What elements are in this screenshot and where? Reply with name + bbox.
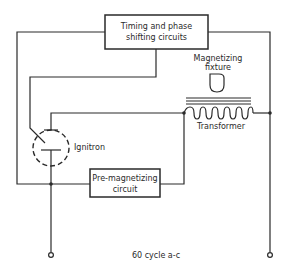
terminal-right [268, 253, 273, 258]
fixture-label-2: fixture [205, 63, 231, 72]
transformer-label: Transformer [196, 122, 246, 131]
trigger-wire [30, 49, 156, 143]
junction-dot [49, 182, 53, 186]
junction-dot [268, 111, 272, 115]
terminal-left [49, 253, 54, 258]
wiring [17, 32, 270, 252]
fixture-icon [210, 74, 224, 92]
premagnetizing-block: Pre-magnetizing circuit [90, 169, 160, 197]
ignitron: Ignitron [33, 130, 105, 166]
premag-label-2: circuit [113, 185, 138, 194]
premag-right-wire [160, 113, 184, 184]
anode-wire [51, 113, 184, 130]
timing-label-2: shifting circuits [126, 33, 187, 42]
magnetizing-fixture: Magnetizing fixture [194, 54, 243, 92]
ignitron-label: Ignitron [74, 143, 105, 152]
coil-icon [184, 107, 253, 119]
supply-label: 60 cycle a-c [132, 251, 180, 260]
fixture-label-1: Magnetizing [194, 54, 243, 63]
timing-phase-block: Timing and phase shifting circuits [105, 15, 208, 49]
transformer: Transformer [184, 98, 253, 131]
premag-label-1: Pre-magnetizing [92, 174, 157, 183]
timing-label-1: Timing and phase [120, 22, 192, 31]
circuit-diagram: Timing and phase shifting circuits Magne… [0, 0, 286, 271]
